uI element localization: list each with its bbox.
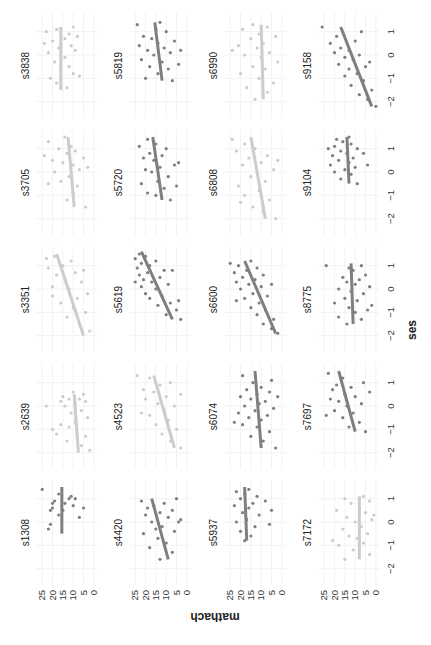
panel-background — [36, 247, 98, 352]
data-point — [331, 154, 334, 157]
data-point — [358, 421, 361, 424]
data-point — [47, 266, 50, 269]
data-point — [51, 159, 54, 162]
data-point — [55, 432, 58, 435]
y-tick-label: 0 — [276, 590, 287, 595]
facet-panel-s1308: s13082520151050 — [20, 480, 99, 601]
data-point — [249, 397, 252, 400]
panel-background — [129, 364, 191, 469]
x-tick-label: 1 — [385, 146, 396, 151]
data-point — [253, 525, 256, 528]
data-point — [55, 273, 58, 276]
data-point — [235, 299, 238, 302]
data-point — [356, 182, 359, 185]
data-point — [86, 166, 89, 169]
data-point — [239, 530, 242, 533]
facet-panel-s5720: s5720 — [113, 130, 191, 235]
data-point — [140, 411, 143, 414]
facet-panel-s6600: s6600 — [208, 247, 286, 352]
data-point — [142, 278, 145, 281]
data-point — [175, 308, 178, 311]
data-point — [245, 388, 248, 391]
data-point — [321, 25, 324, 28]
data-point — [235, 520, 238, 523]
x-tick-label: −1 — [385, 73, 396, 84]
facet-title: s3351 — [20, 285, 31, 313]
data-point — [352, 548, 355, 551]
data-point — [51, 39, 54, 42]
facet-title: s2639 — [20, 402, 31, 430]
data-point — [163, 269, 166, 272]
data-point — [167, 175, 170, 178]
x-tick-label: −1 — [385, 424, 396, 435]
panel-grid: s13082520151050s2639s3351s3705s3838s4420… — [20, 13, 396, 601]
data-point — [177, 299, 180, 302]
data-point — [364, 430, 367, 433]
data-point — [266, 154, 269, 157]
data-point — [165, 395, 168, 398]
data-point — [231, 138, 234, 141]
data-point — [84, 400, 87, 403]
facet-panel-s7172: s71722520151050−2−101 — [302, 480, 396, 601]
data-point — [339, 177, 342, 180]
data-point — [362, 292, 365, 295]
data-point — [47, 182, 50, 185]
data-point — [144, 168, 147, 171]
data-point — [239, 395, 242, 398]
facet-title: s6600 — [208, 285, 219, 313]
data-point — [341, 140, 344, 143]
data-point — [55, 81, 58, 84]
data-point — [354, 283, 357, 286]
data-point — [262, 322, 265, 325]
data-point — [140, 285, 143, 288]
data-point — [51, 285, 54, 288]
y-tick-label: 0 — [181, 590, 192, 595]
data-point — [55, 28, 58, 31]
x-tick-label: −2 — [385, 96, 396, 107]
data-point — [86, 292, 89, 295]
data-point — [84, 311, 87, 314]
data-point — [274, 446, 277, 449]
data-point — [171, 509, 174, 512]
data-point — [345, 322, 348, 325]
data-point — [331, 539, 334, 542]
data-point — [171, 269, 174, 272]
data-point — [169, 51, 172, 54]
data-point — [235, 280, 238, 283]
facet-panel-s7697: s7697−2−101 — [302, 364, 396, 469]
data-point — [243, 53, 246, 56]
data-point — [358, 93, 361, 96]
data-point — [339, 46, 342, 49]
data-point — [268, 198, 271, 201]
x-tick-label: 0 — [385, 403, 396, 408]
data-point — [231, 49, 234, 52]
data-point — [229, 262, 232, 265]
data-point — [51, 294, 54, 297]
data-point — [372, 513, 375, 516]
data-point — [144, 77, 147, 80]
facet-title: s6990 — [208, 51, 219, 79]
data-point — [374, 105, 377, 108]
data-point — [235, 490, 238, 493]
data-point — [249, 435, 252, 438]
data-point — [136, 23, 139, 26]
facet-title: s5819 — [113, 51, 124, 79]
data-point — [163, 46, 166, 49]
data-point — [167, 516, 170, 519]
data-point — [173, 530, 176, 533]
data-point — [237, 264, 240, 267]
data-point — [251, 292, 254, 295]
data-point — [179, 518, 182, 521]
data-point — [335, 35, 338, 38]
data-point — [255, 313, 258, 316]
data-point — [163, 502, 166, 505]
data-point — [72, 72, 75, 75]
data-point — [270, 509, 273, 512]
data-point — [41, 488, 44, 491]
data-point — [49, 523, 52, 526]
data-point — [337, 544, 340, 547]
data-point — [337, 63, 340, 66]
data-point — [72, 504, 75, 507]
data-point — [266, 25, 269, 28]
data-point — [88, 329, 91, 332]
